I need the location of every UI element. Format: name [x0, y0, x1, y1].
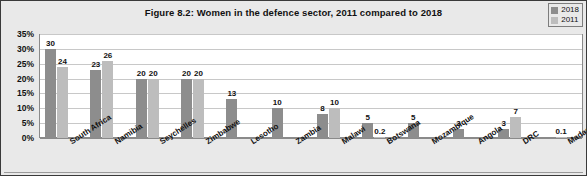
x-axis-tick: DRC	[521, 138, 522, 139]
bar-value-label: 3	[502, 119, 506, 128]
x-axis-tick: Mozambique	[430, 138, 431, 139]
legend-label-2018: 2018	[561, 6, 579, 14]
figure-container: Figure 8.2: Women in the defence sector,…	[0, 0, 587, 176]
bar-group: 50.2	[356, 34, 401, 138]
bar-value-label: 20	[149, 69, 158, 78]
bar-value-label: 20	[137, 69, 146, 78]
y-axis-tick-label: 5%	[22, 118, 34, 128]
footer-divider	[4, 172, 583, 173]
bar-2011[interactable]	[510, 117, 521, 138]
x-axis-tick-label: Angola	[476, 138, 482, 146]
x-axis: South AfricaNamibiaSeychellesZimbabweLes…	[39, 138, 583, 176]
bar-value-label: 20	[182, 69, 191, 78]
x-axis-tick-label: Lesotho	[249, 138, 255, 146]
bar-value-label: 23	[91, 60, 100, 69]
x-axis-tick-label: Zambia	[294, 138, 300, 146]
chart-legend: 2018 2011	[548, 3, 583, 27]
legend-item-2018[interactable]: 2018	[551, 5, 579, 15]
y-axis-tick-label: 0%	[22, 133, 34, 143]
bar-group: 0.1	[538, 34, 583, 138]
y-axis: 0%5%10%15%20%25%30%35%	[1, 34, 36, 138]
y-axis-tick-label: 25%	[17, 59, 34, 69]
x-axis-tick: Zimbabwe	[204, 138, 205, 139]
x-axis-tick-label: DRC	[521, 138, 527, 146]
y-axis-tick-label: 30%	[17, 44, 34, 54]
x-axis-tick: Malawi	[340, 138, 341, 139]
x-axis-tick-label: Madagascar	[566, 138, 572, 146]
bar-2011[interactable]	[102, 61, 113, 138]
x-axis-tick: Madagascar	[566, 138, 567, 139]
x-axis-tick-label: Malawi	[340, 138, 346, 146]
y-axis-tick-label: 10%	[17, 103, 34, 113]
y-axis-tick-label: 20%	[17, 74, 34, 84]
x-axis-tick-label: Namibia	[113, 138, 119, 146]
bar-value-label: 13	[227, 89, 236, 98]
bar-value-label: 0.1	[556, 127, 567, 136]
y-axis-tick-label: 35%	[17, 29, 34, 39]
bar-value-label: 30	[46, 39, 55, 48]
y-axis-tick-label: 15%	[17, 88, 34, 98]
bar-2011[interactable]	[329, 108, 340, 138]
x-axis-tick: Namibia	[113, 138, 114, 139]
bar-2011[interactable]	[148, 79, 159, 138]
bar-2011[interactable]	[57, 67, 68, 138]
bar-value-label: 26	[103, 51, 112, 60]
bar-value-label: 0.2	[374, 127, 385, 136]
x-axis-tick: Seychelles	[158, 138, 159, 139]
bar-value-label: 24	[58, 57, 67, 66]
x-axis-tick: Botswana	[385, 138, 386, 139]
legend-label-2011: 2011	[561, 16, 578, 24]
x-axis-tick-label: Botswana	[385, 138, 391, 146]
x-axis-tick-label: South Africa	[68, 138, 74, 146]
bar-2018[interactable]	[45, 49, 56, 138]
legend-swatch-2011	[551, 17, 558, 24]
bar-value-label: 8	[320, 104, 324, 113]
bar-value-label: 20	[194, 69, 203, 78]
x-axis-tick-label: Seychelles	[158, 138, 164, 146]
bar-group: 3024	[39, 34, 84, 138]
legend-swatch-2018	[551, 7, 558, 14]
bar-group: 810	[311, 34, 356, 138]
bar-value-label: 10	[273, 98, 282, 107]
bar-value-label: 5	[366, 113, 370, 122]
x-axis-tick: Angola	[476, 138, 477, 139]
legend-item-2011[interactable]: 2011	[551, 15, 579, 25]
bar-2011[interactable]	[193, 79, 204, 138]
bar-value-label: 10	[330, 98, 339, 107]
x-axis-tick: Lesotho	[249, 138, 250, 139]
page-title: Figure 8.2: Women in the defence sector,…	[1, 7, 586, 18]
x-axis-tick-label: Mozambique	[430, 138, 436, 146]
bars-layer: 3024232620202020131081050.253370.1	[39, 34, 583, 138]
bar-value-label: 7	[514, 107, 518, 116]
x-axis-tick: Zambia	[294, 138, 295, 139]
x-axis-tick-label: Zimbabwe	[204, 138, 210, 146]
bar-group: 37	[492, 34, 537, 138]
x-axis-tick: South Africa	[68, 138, 69, 139]
